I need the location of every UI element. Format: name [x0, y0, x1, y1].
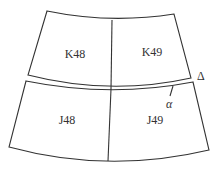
alpha-leader-line	[170, 86, 173, 96]
sheet-outline-k48-k49	[28, 11, 191, 86]
sheet-label-k49: K49	[142, 45, 163, 59]
delta-symbol: Δ	[197, 69, 205, 83]
divider-k48-k49	[111, 20, 112, 89]
sheet-label-j48: J48	[59, 113, 76, 127]
map-sheet-diagram: K48 K49 J48 J49 Δ α	[0, 0, 216, 169]
sheet-label-k48: K48	[65, 47, 86, 61]
alpha-symbol: α	[166, 97, 173, 111]
diagram-canvas: K48 K49 J48 J49 Δ α	[0, 0, 216, 169]
divider-j48-j49	[108, 89, 111, 161]
sheet-label-j49: J49	[147, 113, 164, 127]
